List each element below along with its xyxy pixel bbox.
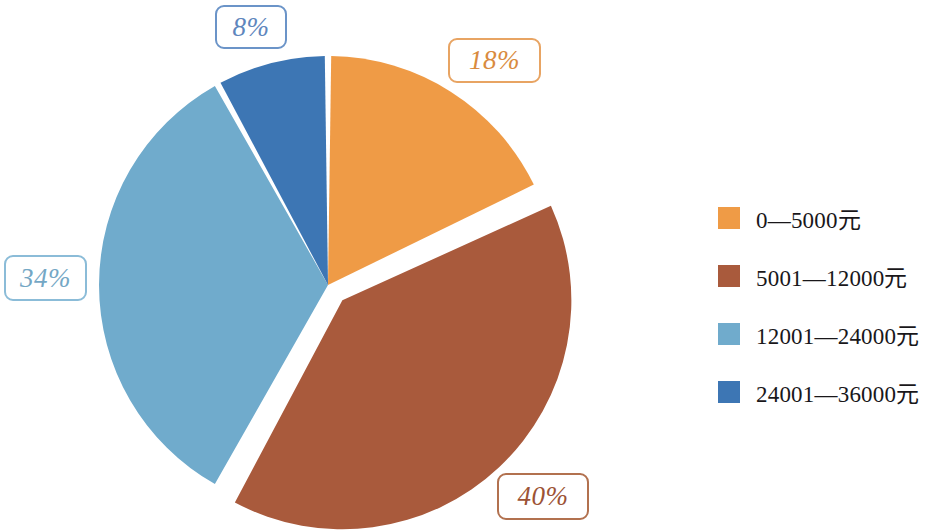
pie-slices-group: 0—5000元 18%5001—12000元 40%12001—24000元 3… xyxy=(99,56,571,529)
slice-label-12001-24000: 34% xyxy=(4,255,87,301)
legend-item-0[interactable]: 0—5000元 xyxy=(718,189,941,247)
legend-item-3[interactable]: 24001—36000元 xyxy=(718,363,941,421)
slice-label-5001-12000: 40% xyxy=(497,473,589,520)
slice-label-24001-36000: 8% xyxy=(215,5,287,49)
legend-label-3: 24001—36000元 xyxy=(756,375,919,409)
pie-chart-page: 0—5000元 18%5001—12000元 40%12001—24000元 3… xyxy=(0,0,941,532)
chart-legend: 0—5000元5001—12000元12001—24000元24001—3600… xyxy=(718,189,941,421)
pie-svg: 0—5000元 18%5001—12000元 40%12001—24000元 3… xyxy=(0,0,660,532)
slice-label-0-5000: 18% xyxy=(448,38,541,83)
legend-label-1: 5001—12000元 xyxy=(756,259,908,293)
legend-swatch-0-5000 xyxy=(718,207,740,229)
legend-item-1[interactable]: 5001—12000元 xyxy=(718,247,941,305)
pie-chart-graphic: 0—5000元 18%5001—12000元 40%12001—24000元 3… xyxy=(0,0,660,532)
legend-swatch-24001-36000 xyxy=(718,381,740,403)
legend-swatch-12001-24000 xyxy=(718,323,740,345)
legend-swatch-5001-12000 xyxy=(718,265,740,287)
legend-label-2: 12001—24000元 xyxy=(756,317,919,351)
legend-label-0: 0—5000元 xyxy=(756,201,861,235)
legend-item-2[interactable]: 12001—24000元 xyxy=(718,305,941,363)
